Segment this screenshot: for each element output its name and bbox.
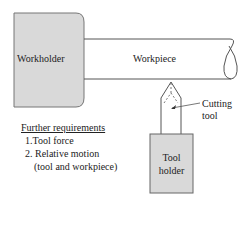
tool-holder-label-2: holder: [150, 165, 193, 177]
cutting-tool-label-1: Cutting: [202, 98, 232, 110]
leader-arrowhead: [171, 105, 176, 109]
tool-holder-label-1: Tool: [150, 152, 193, 164]
cutting-tool-label-2: tool: [202, 110, 218, 122]
workholder-label: Workholder: [17, 53, 65, 65]
cutting-tool: [161, 82, 181, 134]
workpiece-label: Workpiece: [133, 53, 176, 65]
requirement-item: (tool and workpiece): [34, 161, 117, 173]
requirements-title: Further requirements: [21, 122, 105, 134]
cutting-tool-leader: [172, 103, 200, 108]
requirement-item: 1.Tool force: [25, 135, 74, 147]
cutting-tool-hidden-lines: [164, 83, 178, 103]
requirement-item: 2. Relative motion: [25, 148, 99, 160]
